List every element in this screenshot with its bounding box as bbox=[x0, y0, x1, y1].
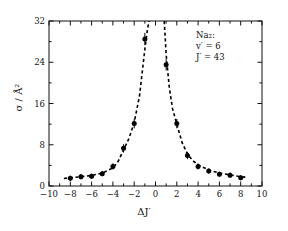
annotation-rotational: J′ = 43 bbox=[196, 52, 225, 63]
data-point bbox=[238, 175, 243, 180]
y-axis-title: σ / Å² bbox=[13, 68, 24, 128]
fit-curve bbox=[64, 21, 149, 179]
x-tick-label: −2 bbox=[128, 189, 141, 199]
x-axis-title: ΔJ′ bbox=[0, 206, 288, 217]
x-tick-label: 4 bbox=[195, 189, 200, 199]
data-point bbox=[100, 171, 105, 176]
data-point bbox=[89, 174, 94, 179]
y-tick-label: 32 bbox=[34, 16, 45, 26]
y-tick-label: 8 bbox=[40, 140, 45, 150]
x-tick-label: 8 bbox=[238, 189, 243, 199]
x-tick-label: −4 bbox=[107, 189, 120, 199]
data-point bbox=[228, 173, 233, 178]
data-point bbox=[164, 62, 169, 67]
scatter-plot: −10−8−6−4−2024681008162432 bbox=[0, 0, 288, 231]
plot-annotation: Na₂: v′ = 6 J′ = 43 bbox=[196, 30, 225, 63]
data-point bbox=[68, 176, 73, 181]
data-point bbox=[185, 153, 190, 158]
data-point bbox=[78, 174, 83, 179]
x-tick-label: 6 bbox=[217, 189, 222, 199]
data-point bbox=[206, 169, 211, 174]
data-point bbox=[132, 121, 137, 126]
data-point bbox=[110, 164, 115, 169]
x-tick-label: 10 bbox=[257, 189, 268, 199]
y-tick-label: 16 bbox=[34, 99, 45, 109]
annotation-vibrational: v′ = 6 bbox=[196, 41, 225, 52]
x-tick-label: −6 bbox=[85, 189, 98, 199]
data-point bbox=[142, 37, 147, 42]
x-tick-label: 2 bbox=[174, 189, 179, 199]
data-point bbox=[217, 172, 222, 177]
data-point bbox=[174, 121, 179, 126]
data-point bbox=[196, 164, 201, 169]
annotation-species: Na₂: bbox=[196, 30, 225, 41]
plot-frame bbox=[49, 21, 262, 186]
y-tick-label: 0 bbox=[40, 181, 45, 191]
y-tick-label: 24 bbox=[34, 57, 45, 67]
x-tick-label: 0 bbox=[153, 189, 158, 199]
figure-container: −10−8−6−4−2024681008162432 Na₂: v′ = 6 J… bbox=[0, 0, 288, 231]
data-point bbox=[121, 146, 126, 151]
x-tick-label: −8 bbox=[64, 189, 77, 199]
